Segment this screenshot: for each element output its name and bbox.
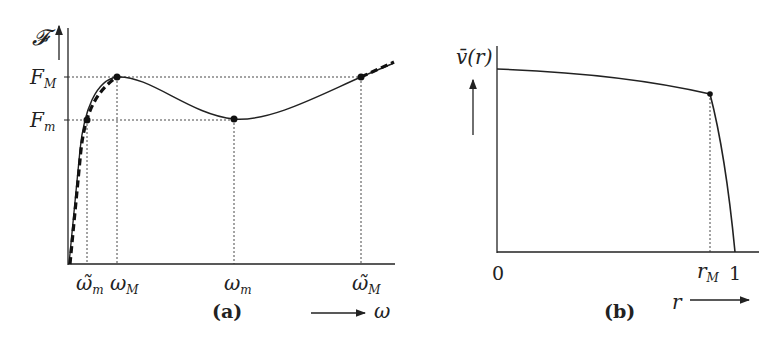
point-wtM-FM [358,74,365,81]
panel-a-x-label: ω [374,299,390,323]
tick-omega-m: ωm [224,271,252,297]
panel-b-x-label: r [672,290,683,314]
point-wtm-Fm [84,117,91,124]
tick-0: 0 [492,262,504,284]
tick-omega-M: ωM [110,271,139,297]
tick-omega-tilde-m: ω̃m [76,271,104,297]
curve-F-solid [69,63,394,264]
panel-a-caption: (a) [212,300,242,322]
panel-a-y-label: 𝓕 [32,25,56,50]
point-wM-FM [114,74,121,81]
curve-v-bar [497,69,735,252]
panel-b-y-label: v̄(r) [456,45,492,69]
tick-F-M: FM [29,65,57,91]
tick-r-M: rM [697,259,720,285]
panel-a: 𝓕 FM Fm ω̃m ωM ωm ω̃M (a) ω [29,25,395,323]
tick-omega-tilde-M: ω̃M [352,271,381,297]
tick-1: 1 [729,262,741,284]
guide-lines [68,77,361,264]
figure: 𝓕 FM Fm ω̃m ωM ωm ω̃M (a) ω [0,0,779,343]
curve-F-dashed [70,62,394,264]
tick-F-m: Fm [29,108,55,134]
point-wm-Fm [231,116,238,123]
panel-b-caption: (b) [604,300,635,322]
panel-b: v̄(r) 0 rM 1 (b) r [456,45,759,322]
point-rM [707,91,713,97]
figure-svg: 𝓕 FM Fm ω̃m ωM ωm ω̃M (a) ω [0,0,779,343]
